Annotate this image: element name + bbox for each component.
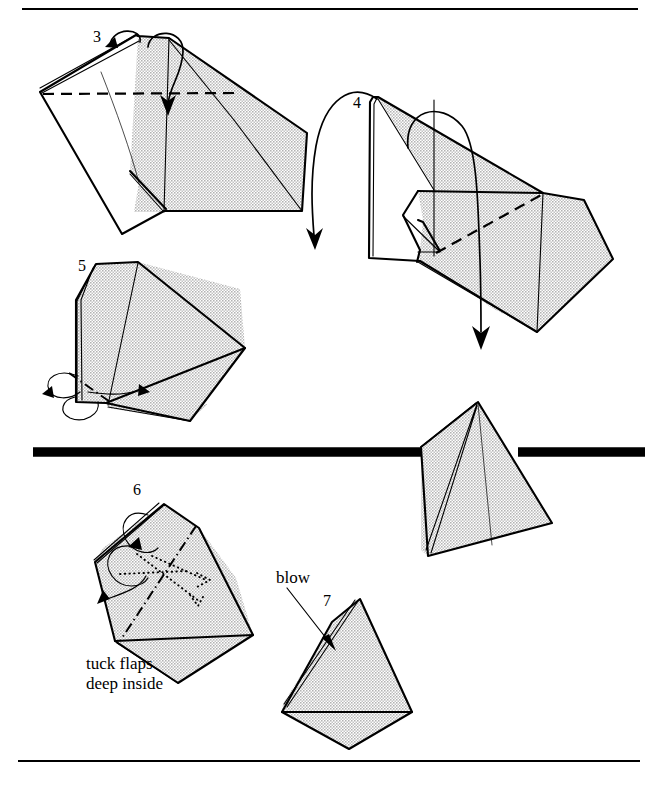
step-label-3: 3 [93, 28, 101, 45]
step-label-7: 7 [323, 592, 331, 609]
origami-diagram-canvas: 3 [0, 0, 650, 786]
pyramid-shaded-body [421, 402, 552, 556]
step6-caption-line-1: tuck flaps [86, 654, 153, 673]
step7-shaded-body [282, 599, 412, 749]
step-label-6: 6 [133, 481, 141, 498]
step-label-4: 4 [353, 94, 361, 111]
figure-step-6: 6 tuck flaps deep inside [86, 481, 253, 693]
figure-step-4: 4 [306, 92, 613, 350]
step6-caption-line-2: deep inside [86, 674, 163, 693]
step3-shaded-body [130, 36, 307, 211]
step-label-5: 5 [78, 257, 86, 274]
figure-step-5: 5 [42, 257, 245, 421]
origami-instruction-page: 3 [0, 0, 650, 786]
figure-inflated-pyramid [421, 402, 552, 556]
figure-step-7: blow 7 [276, 568, 412, 749]
step3-valley-fold-line [43, 93, 234, 94]
step7-caption-blow: blow [276, 568, 311, 587]
step4-arc-arrow-left [312, 92, 377, 236]
figure-step-3: 3 [40, 28, 307, 234]
